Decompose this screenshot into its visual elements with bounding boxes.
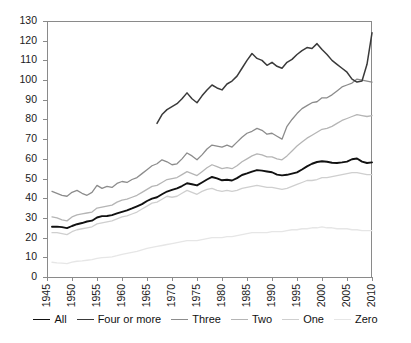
legend-item-two[interactable]: Two	[231, 313, 272, 325]
series-line-one	[52, 173, 372, 235]
legend-item-one[interactable]: One	[282, 313, 324, 325]
y-tick-label: 90	[11, 94, 37, 105]
y-tick-label: 50	[11, 173, 37, 184]
x-tick-label: 1990	[266, 284, 277, 307]
legend-swatch-icon	[77, 319, 94, 320]
y-tick-label: 40	[11, 192, 37, 203]
x-tick-label: 1955	[91, 284, 102, 307]
x-tick-label: 2010	[366, 284, 377, 307]
series-line-all	[52, 158, 372, 228]
series-line-two	[52, 115, 372, 221]
legend-item-three[interactable]: Three	[171, 313, 221, 325]
y-tick-label: 30	[11, 212, 37, 223]
y-tick-label: 100	[11, 74, 37, 85]
x-tick-label: 1965	[141, 284, 152, 307]
legend-label: Zero	[355, 313, 378, 325]
x-tick-label: 2005	[341, 284, 352, 307]
series-line-three	[52, 79, 372, 196]
x-tick-label: 1970	[166, 284, 177, 307]
chart-axes	[43, 21, 373, 281]
legend-label: Four or more	[98, 313, 162, 325]
chart-series-layer	[52, 33, 372, 264]
y-tick-label: 0	[11, 271, 37, 282]
y-tick-label: 120	[11, 35, 37, 46]
x-tick-label: 1945	[41, 284, 52, 307]
legend-label: Three	[192, 313, 221, 325]
legend-swatch-icon	[33, 319, 50, 320]
legend-swatch-icon	[171, 319, 188, 320]
legend-item-four-or-more[interactable]: Four or more	[77, 313, 162, 325]
x-tick-label: 1975	[191, 284, 202, 307]
legend-label: Two	[252, 313, 272, 325]
legend-item-zero[interactable]: Zero	[334, 313, 378, 325]
x-tick-label: 1985	[241, 284, 252, 307]
series-line-four-or-more	[157, 33, 372, 124]
y-tick-label: 130	[11, 15, 37, 26]
y-tick-label: 20	[11, 232, 37, 243]
y-tick-label: 10	[11, 251, 37, 262]
y-tick-label: 80	[11, 113, 37, 124]
line-chart: 0102030405060708090100110120130 19451950…	[0, 0, 411, 343]
legend-label: All	[54, 313, 66, 325]
y-tick-label: 110	[11, 54, 37, 65]
y-tick-label: 60	[11, 153, 37, 164]
y-tick-label: 70	[11, 133, 37, 144]
x-tick-label: 2000	[316, 284, 327, 307]
chart-legend: AllFour or moreThreeTwoOneZero	[0, 313, 411, 325]
x-tick-label: 1950	[66, 284, 77, 307]
x-tick-label: 1960	[116, 284, 127, 307]
series-line-zero	[52, 227, 372, 264]
legend-swatch-icon	[231, 319, 248, 320]
x-tick-label: 1980	[216, 284, 227, 307]
legend-swatch-icon	[282, 319, 299, 320]
legend-swatch-icon	[334, 319, 351, 320]
legend-item-all[interactable]: All	[33, 313, 66, 325]
x-tick-label: 1995	[291, 284, 302, 307]
legend-label: One	[303, 313, 324, 325]
